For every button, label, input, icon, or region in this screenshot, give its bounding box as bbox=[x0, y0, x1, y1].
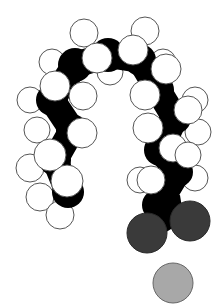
hydrogen-atom bbox=[82, 43, 112, 73]
hydrogen-atom bbox=[137, 166, 165, 194]
hydrogen-atom bbox=[118, 35, 148, 65]
hydrogen-atom bbox=[69, 82, 97, 110]
counter-ion bbox=[153, 263, 193, 303]
oxygen-atom bbox=[127, 213, 167, 253]
counter-ion-atom bbox=[153, 263, 193, 303]
hydrogen-atom bbox=[70, 19, 98, 47]
carboxylate-oxygens bbox=[127, 195, 210, 253]
hydrogen-atom bbox=[175, 142, 201, 168]
hydrogen-atom bbox=[34, 139, 66, 171]
hydrogen-atom bbox=[40, 71, 70, 101]
hydrogen-atom bbox=[174, 96, 202, 124]
molecule-diagram bbox=[0, 0, 222, 305]
hydrogen-atom bbox=[133, 113, 163, 143]
hydrogen-atom bbox=[151, 54, 181, 84]
oxygen-atom bbox=[170, 201, 210, 241]
hydrogen-atom bbox=[67, 118, 97, 148]
hydrogen-atom bbox=[130, 80, 160, 110]
